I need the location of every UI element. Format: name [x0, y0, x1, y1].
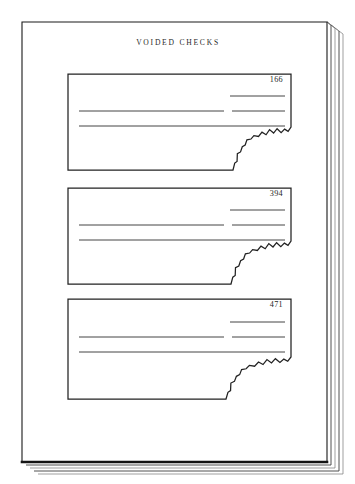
voided-checks-group: 166394471 [68, 74, 291, 399]
voided-checks-illustration: VOIDED CHECKS 166394471 [0, 0, 355, 484]
voided-checks-figure: VOIDED CHECKS 166394471 [0, 0, 355, 484]
page-title: VOIDED CHECKS [136, 38, 220, 47]
page-stack-connector-1 [327, 22, 331, 25]
check-number: 394 [270, 189, 283, 198]
check-number: 471 [270, 300, 283, 309]
check-number: 166 [270, 75, 283, 84]
